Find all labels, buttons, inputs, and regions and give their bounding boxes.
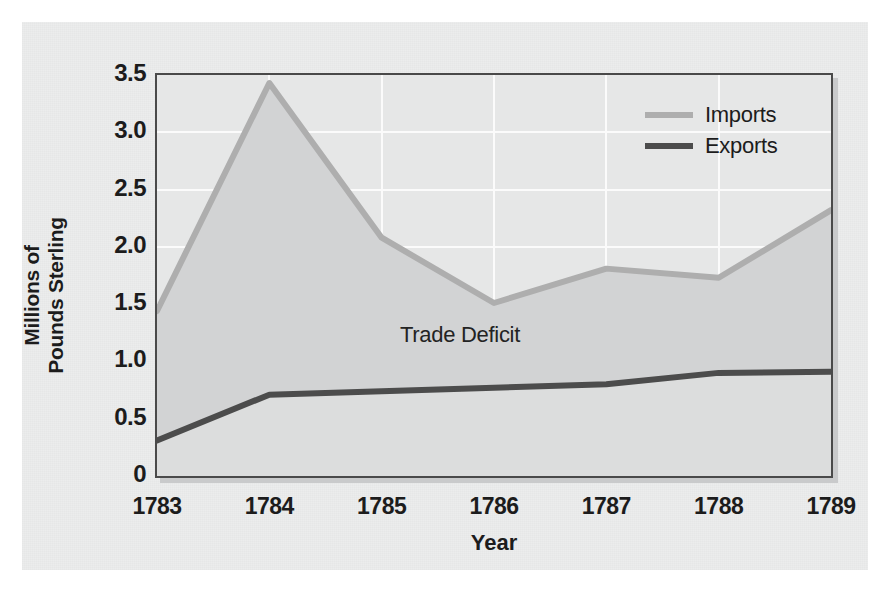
y-axis-tick-label: 0.5 <box>100 403 146 431</box>
y-axis-tick-label: 1.5 <box>100 288 146 316</box>
y-axis-title-line1: Millions of <box>20 245 43 346</box>
x-axis-tick-label: 1785 <box>327 493 437 520</box>
x-axis-tick-label: 1786 <box>439 493 549 520</box>
y-axis-tick-label: 3.0 <box>100 116 146 144</box>
legend-label: Imports <box>705 102 776 128</box>
y-axis-tick-label: 3.5 <box>100 59 146 87</box>
y-axis-tick-label: 2.0 <box>100 231 146 259</box>
y-axis-tick-label: 0 <box>100 460 146 488</box>
y-axis-tick-label: 1.0 <box>100 345 146 373</box>
plot-wrapper: 3.53.02.52.01.51.00.50 Millions of Pound… <box>0 0 888 593</box>
x-axis-tick-label: 1783 <box>102 493 212 520</box>
x-axis-tick-label: 1788 <box>664 493 774 520</box>
x-axis-title: Year <box>155 530 833 556</box>
legend-swatch-icon <box>645 143 693 149</box>
legend-item: Imports <box>645 99 777 130</box>
y-axis-title-line2: Pounds Sterling <box>44 217 67 374</box>
legend-label: Exports <box>705 133 777 159</box>
trade-deficit-annotation: Trade Deficit <box>400 322 520 348</box>
y-axis-tick-label: 2.5 <box>100 174 146 202</box>
legend-swatch-icon <box>645 112 693 118</box>
x-axis-tick-label: 1784 <box>214 493 324 520</box>
x-axis-tick-label: 1787 <box>551 493 661 520</box>
chart-page: 3.53.02.52.01.51.00.50 Millions of Pound… <box>0 0 888 593</box>
legend-item: Exports <box>645 130 777 161</box>
chart-legend: ImportsExports <box>645 99 777 161</box>
x-axis-tick-label: 1789 <box>776 493 886 520</box>
y-axis-title: Millions of Pounds Sterling <box>20 166 67 426</box>
